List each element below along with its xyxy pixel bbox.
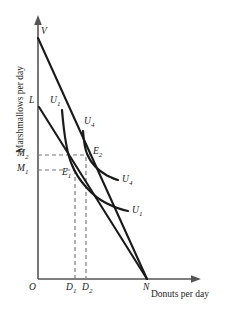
y-axis-arrowhead bbox=[34, 15, 42, 25]
origin-label: O bbox=[29, 283, 36, 293]
tick-label-m2-subscript: 2 bbox=[25, 153, 29, 161]
point-label-v: V bbox=[41, 27, 47, 37]
curve-label-u1-upper-subscript: 1 bbox=[57, 100, 61, 108]
curve-label-u1-lower-base: U bbox=[132, 205, 139, 215]
x-axis-arrowhead bbox=[191, 275, 201, 283]
point-label-e2-subscript: 2 bbox=[99, 151, 103, 159]
tick-label-d1: D1 bbox=[66, 283, 76, 295]
tick-label-m1-base: M bbox=[17, 163, 25, 173]
curve-label-u4-lower-base: U bbox=[122, 174, 129, 184]
point-label-e1: E1 bbox=[62, 168, 71, 180]
point-label-e2: E2 bbox=[93, 147, 102, 159]
tick-label-m2-base: M bbox=[17, 148, 25, 158]
tick-label-m2: M2 bbox=[17, 149, 28, 161]
curve-label-u4-lower-subscript: 4 bbox=[129, 179, 133, 187]
y-axis-title: Marshmallows per day bbox=[16, 66, 26, 153]
curve-label-u4-upper-base: U bbox=[84, 116, 91, 126]
axes-group bbox=[34, 15, 201, 283]
x-axis-title: Donuts per day bbox=[151, 290, 209, 300]
tick-label-d1-base: D bbox=[66, 282, 73, 292]
curve-label-u1-upper: U1 bbox=[50, 96, 60, 108]
tick-label-m1-subscript: 1 bbox=[25, 168, 29, 176]
curve-label-u1-upper-base: U bbox=[50, 95, 57, 105]
point-label-l: L bbox=[29, 96, 34, 106]
point-label-e1-subscript: 1 bbox=[68, 172, 72, 180]
tick-label-d2-subscript: 2 bbox=[89, 287, 93, 295]
point-label-n: N bbox=[143, 283, 149, 293]
curve-label-u4-upper-subscript: 4 bbox=[91, 121, 95, 129]
curve-label-u4-upper: U4 bbox=[84, 117, 94, 129]
diagram-canvas bbox=[0, 0, 228, 314]
indifference-curve-figure: Marshmallows per day Donuts per day O V … bbox=[0, 0, 228, 314]
curve-label-u1-lower: U1 bbox=[132, 206, 142, 218]
tick-label-m1: M1 bbox=[17, 164, 28, 176]
tick-label-d2-base: D bbox=[82, 282, 89, 292]
curve-label-u1-lower-subscript: 1 bbox=[139, 210, 143, 218]
tick-label-d1-subscript: 1 bbox=[73, 287, 77, 295]
tick-label-d2: D2 bbox=[82, 283, 92, 295]
curve-label-u4-lower: U4 bbox=[122, 175, 132, 187]
